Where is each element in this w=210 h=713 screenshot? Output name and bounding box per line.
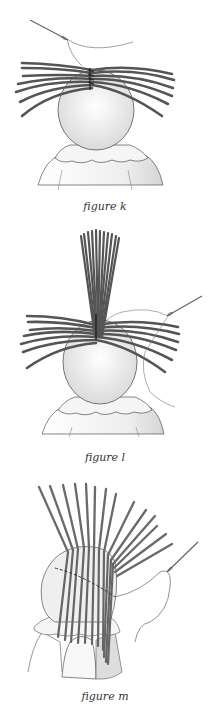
figure-k-caption: figure k bbox=[0, 200, 210, 213]
figure-m-caption: figure m bbox=[0, 690, 210, 703]
thread bbox=[115, 571, 170, 642]
needle-icon bbox=[30, 20, 68, 40]
figure-l bbox=[0, 222, 210, 437]
vertical-strands bbox=[81, 230, 119, 337]
figure-m bbox=[0, 472, 210, 687]
figure-l-illustration bbox=[0, 222, 210, 437]
figure-l-caption: figure l bbox=[0, 451, 210, 464]
figure-k bbox=[0, 0, 210, 195]
doll-body bbox=[38, 145, 163, 190]
thread bbox=[67, 39, 133, 66]
needle-icon bbox=[167, 296, 202, 316]
figure-m-illustration bbox=[0, 472, 210, 687]
needle-icon bbox=[167, 542, 198, 572]
figure-k-illustration bbox=[0, 0, 210, 195]
